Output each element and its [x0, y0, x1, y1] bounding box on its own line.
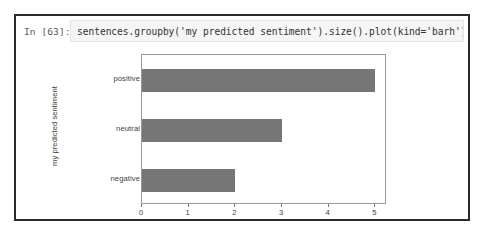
bar-neutral [142, 119, 282, 142]
plot-area [141, 54, 386, 204]
x-tick-mark-1 [188, 204, 189, 207]
x-tick-label-0: 0 [139, 208, 143, 217]
execution-count-prompt: In [63]: [16, 26, 70, 37]
x-tick-mark-5 [374, 204, 375, 207]
x-tick-mark-3 [281, 204, 282, 207]
y-axis-title: my predicted sentiment [50, 76, 64, 176]
x-tick-label-2: 2 [232, 208, 236, 217]
code-input-text: sentences.groupby('my predicted sentimen… [77, 26, 464, 37]
matplotlib-figure: my predicted sentiment negativeneutralpo… [56, 46, 428, 219]
y-tick-label-negative: negative [70, 174, 140, 183]
code-input[interactable]: sentences.groupby('my predicted sentimen… [70, 20, 464, 42]
notebook-cell: In [63]: sentences.groupby('my predicted… [14, 14, 470, 221]
cell-output-area: my predicted sentiment negativeneutralpo… [16, 46, 468, 219]
bar-negative [142, 169, 235, 192]
x-tick-mark-4 [328, 204, 329, 207]
x-tick-mark-2 [234, 204, 235, 207]
bar-positive [142, 69, 375, 92]
y-tick-label-neutral: neutral [70, 124, 140, 133]
x-tick-label-5: 5 [372, 208, 376, 217]
x-tick-mark-0 [141, 204, 142, 207]
x-axis: 012345 [141, 204, 386, 220]
y-tick-label-positive: positive [70, 74, 140, 83]
y-axis-tick-labels: negativeneutralpositive [64, 46, 140, 206]
code-cell-input-row: In [63]: sentences.groupby('my predicted… [16, 16, 468, 46]
x-tick-label-3: 3 [279, 208, 283, 217]
x-tick-label-4: 4 [326, 208, 330, 217]
x-tick-label-1: 1 [186, 208, 190, 217]
